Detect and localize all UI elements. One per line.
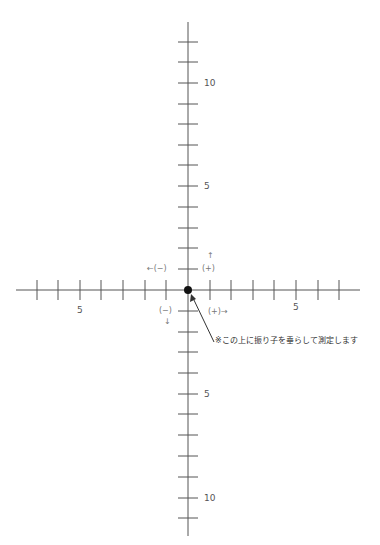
down-arrow-icon: ↓ [164, 318, 171, 326]
up-plus-label: (+) [202, 265, 215, 273]
horizontal-label-left-5: 5 [77, 306, 83, 315]
vertical-label-up-10: 10 [204, 79, 215, 88]
vertical-label-down-10: 10 [204, 494, 215, 503]
measurement-note: ※この上に振り子を垂らして測定します [215, 337, 358, 345]
left-minus-label: ←(−) [147, 265, 167, 273]
coordinate-grid [0, 0, 380, 545]
horizontal-label-right-5: 5 [293, 303, 299, 312]
vertical-label-up-5: 5 [204, 182, 210, 191]
down-minus-label: (−) [159, 307, 172, 315]
right-plus-label: (+)→ [208, 308, 228, 316]
pointer-arrow-line [193, 298, 214, 342]
vertical-label-down-5: 5 [204, 390, 210, 399]
origin-dot [184, 286, 192, 294]
pointer-arrowhead-icon [190, 294, 196, 302]
up-arrow-icon: ↑ [207, 252, 214, 260]
